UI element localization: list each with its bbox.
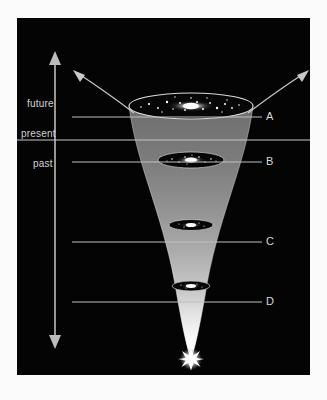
galaxy-top [133, 95, 249, 117]
time-direction-arrow [49, 51, 61, 349]
era-label-past: past [33, 159, 53, 169]
callout-label-b: B [266, 156, 274, 167]
era-label-present: present [21, 129, 56, 139]
era-label-future: future [27, 99, 54, 109]
diagram-panel: future present past A B C D [17, 18, 310, 375]
galaxy-early [172, 281, 210, 291]
universe-funnel-illustration [17, 18, 310, 375]
callout-label-d: D [266, 296, 274, 307]
left-expansion-arrow [73, 70, 134, 113]
galaxy-mid [169, 220, 213, 231]
callout-label-c: C [266, 236, 274, 247]
figure-root: future present past A B C D [0, 0, 327, 400]
big-bang-starburst [178, 348, 204, 370]
right-expansion-arrow [248, 70, 309, 113]
galaxy-present [158, 152, 224, 168]
callout-label-a: A [266, 111, 274, 122]
